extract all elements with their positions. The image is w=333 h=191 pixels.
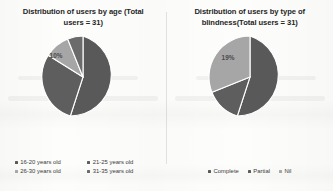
legend-label: Complete — [214, 168, 239, 174]
legend-item-26-30[interactable]: 26-30 years old — [11, 168, 84, 174]
legend-label: 16-20 years old — [20, 159, 61, 165]
chart-panel-blindness: Distribution of users by type of blindne… — [167, 0, 333, 191]
legend-label: 31-35 years old — [93, 168, 134, 174]
chart-panel-age: Distribution of users by age (Total user… — [0, 0, 167, 191]
pie-age-svg: 10% — [36, 35, 130, 119]
legend-swatch-icon — [208, 170, 211, 173]
legend-label: Partial — [253, 168, 270, 174]
pie-slice-label-26-30: 10% — [50, 52, 63, 59]
pie-slice-label-nil: 19% — [221, 54, 234, 61]
legend-blindness: Complete Partial Nil — [208, 168, 291, 174]
pie-blindness-svg: 19% — [203, 35, 297, 119]
pie-blindness: 19% — [203, 35, 297, 119]
pie-age: 10% — [36, 35, 130, 119]
legend-item-31-35[interactable]: 31-35 years old — [83, 168, 156, 174]
legend-swatch-icon — [15, 161, 18, 164]
legend-item-21-25[interactable]: 21-25 years old — [83, 159, 156, 165]
legend-swatch-icon — [248, 170, 251, 173]
legend-item-16-20[interactable]: 16-20 years old — [11, 159, 84, 165]
chart-title-age: Distribution of users by age (Total user… — [19, 7, 147, 28]
legend-swatch-icon — [279, 170, 282, 173]
legend-label: 26-30 years old — [20, 168, 61, 174]
pie-chart-figure: Distribution of users by age (Total user… — [0, 0, 333, 191]
chart-title-blindness: Distribution of users by type of blindne… — [186, 7, 314, 28]
legend-label: 21-25 years old — [93, 159, 134, 165]
legend-swatch-icon — [87, 170, 90, 173]
legend-swatch-icon — [15, 170, 18, 173]
legend-item-complete[interactable]: Complete — [208, 168, 239, 174]
legend-age: 16-20 years old 21-25 years old 26-30 ye… — [11, 159, 156, 174]
legend-swatch-icon — [87, 161, 90, 164]
legend-label: Nil — [285, 168, 292, 174]
legend-item-nil[interactable]: Nil — [279, 168, 291, 174]
legend-item-partial[interactable]: Partial — [248, 168, 270, 174]
